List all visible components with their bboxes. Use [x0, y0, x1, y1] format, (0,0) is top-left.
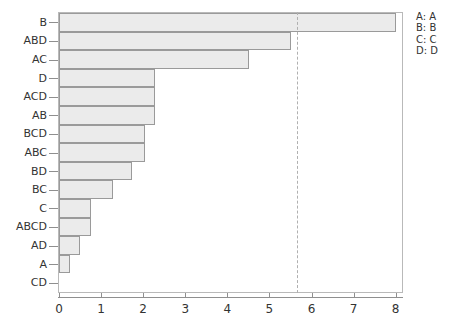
y-axis-label-ABC: ABC	[24, 147, 47, 158]
bar-row	[59, 199, 402, 218]
y-axis-tick-C	[49, 208, 58, 209]
y-axis-label-ABCD: ABCD	[16, 221, 47, 232]
y-axis-tick-ABCD	[49, 227, 58, 228]
x-axis-label-6: 6	[302, 303, 322, 316]
x-axis-tick-4	[227, 293, 228, 298]
legend-label-A: A	[429, 11, 436, 22]
bar-ACD	[59, 87, 155, 106]
legend-label-C: C	[430, 34, 437, 45]
pareto-effects-bar-chart: BABDACDACDABBCDABCBDBCCABCDADACD 0123456…	[0, 0, 454, 334]
bar-row	[59, 106, 402, 125]
y-axis-label-BD: BD	[31, 166, 47, 177]
y-axis-label-D: D	[39, 73, 47, 84]
bar-row	[59, 162, 402, 181]
bar-row	[59, 69, 402, 88]
legend-label-D: D	[430, 45, 438, 56]
y-axis-tick-AB	[49, 115, 58, 116]
bar-row	[59, 125, 402, 144]
x-axis-label-7: 7	[344, 303, 364, 316]
y-axis-tick-A	[49, 264, 58, 265]
y-axis-label-AC: AC	[32, 54, 47, 65]
bar-row	[59, 218, 402, 237]
y-axis-label-BC: BC	[32, 184, 47, 195]
x-axis-label-3: 3	[175, 303, 195, 316]
legend-label-B: B	[429, 22, 436, 33]
x-axis-tick-6	[312, 293, 313, 298]
x-axis-line	[58, 297, 403, 298]
bar-B	[59, 13, 396, 32]
y-axis-tick-D	[49, 78, 58, 79]
x-axis-tick-5	[269, 293, 270, 298]
x-axis-tick-0	[59, 293, 60, 298]
legend-key-A: A:	[416, 11, 429, 22]
x-axis-label-1: 1	[91, 303, 111, 316]
bar-ABD	[59, 32, 291, 51]
legend-key-C: C:	[416, 34, 430, 45]
y-axis-label-AD: AD	[31, 240, 47, 251]
x-axis-tick-1	[101, 293, 102, 298]
x-axis-tick-8	[396, 293, 397, 298]
y-axis-tick-ACD	[49, 97, 58, 98]
x-axis-label-2: 2	[133, 303, 153, 316]
y-axis-labels: BABDACDACDABBCDABCBDBCCABCDADACD	[0, 0, 47, 334]
x-axis-tick-7	[354, 293, 355, 298]
bar-BC	[59, 180, 113, 199]
y-axis-label-A: A	[39, 259, 47, 270]
bar-BCD	[59, 125, 145, 144]
bar-row	[59, 143, 402, 162]
bar-ABC	[59, 143, 145, 162]
bar-ABCD	[59, 218, 91, 237]
bar-BD	[59, 162, 132, 181]
bar-row	[59, 236, 402, 255]
bar-row	[59, 87, 402, 106]
bars-layer	[59, 13, 402, 292]
legend-key-D: D:	[416, 45, 430, 56]
bar-AB	[59, 106, 155, 125]
x-axis-label-8: 8	[386, 303, 406, 316]
bar-row	[59, 32, 402, 51]
x-axis-tick-3	[185, 293, 186, 298]
legend-entry-C: C: C	[416, 34, 438, 45]
bar-AC	[59, 50, 249, 69]
y-axis-label-ABD: ABD	[23, 35, 47, 46]
bar-row	[59, 13, 402, 32]
legend-entry-D: D: D	[416, 45, 438, 56]
y-axis-label-CD: CD	[31, 277, 47, 288]
y-axis-label-C: C	[39, 203, 47, 214]
y-axis-tick-B	[49, 22, 58, 23]
x-axis-label-5: 5	[259, 303, 279, 316]
bar-AD	[59, 236, 80, 255]
legend: A: AB: BC: CD: D	[416, 11, 438, 57]
legend-entry-B: B: B	[416, 22, 438, 33]
bar-A	[59, 255, 70, 274]
y-axis-tick-ABC	[49, 153, 58, 154]
legend-entry-A: A: A	[416, 11, 438, 22]
y-axis-tick-CD	[49, 283, 58, 284]
bar-row	[59, 50, 402, 69]
y-axis-label-AB: AB	[32, 110, 47, 121]
bar-row	[59, 180, 402, 199]
bar-C	[59, 199, 91, 218]
y-axis-tick-AD	[49, 246, 58, 247]
y-axis-tick-AC	[49, 60, 58, 61]
bar-row	[59, 255, 402, 274]
y-axis-tick-ABD	[49, 41, 58, 42]
x-axis-tick-2	[143, 293, 144, 298]
x-axis-label-0: 0	[49, 303, 69, 316]
legend-key-B: B:	[416, 22, 429, 33]
y-axis-label-BCD: BCD	[23, 128, 47, 139]
threshold-reference-line	[297, 12, 298, 293]
y-axis-tick-BCD	[49, 134, 58, 135]
x-axis-label-4: 4	[217, 303, 237, 316]
bar-row	[59, 273, 402, 292]
y-axis-tick-BD	[49, 171, 58, 172]
y-axis-label-ACD: ACD	[24, 91, 47, 102]
y-axis-tick-BC	[49, 190, 58, 191]
y-axis-label-B: B	[39, 17, 47, 28]
bar-D	[59, 69, 155, 88]
